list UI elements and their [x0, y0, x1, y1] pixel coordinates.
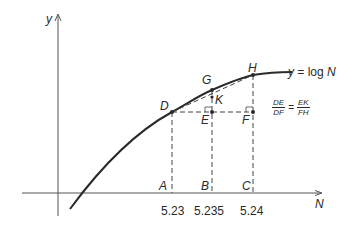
point-K — [210, 95, 213, 98]
point-G — [210, 88, 214, 92]
label-B: B — [201, 180, 209, 192]
tick-A-value: 5.23 — [161, 205, 184, 217]
log-curve — [70, 72, 292, 209]
label-F: F — [242, 114, 249, 126]
curve-label: y = log N — [288, 66, 336, 78]
ratio-formula: DE DF = EK FH — [272, 98, 310, 117]
point-D — [170, 110, 174, 114]
x-axis-label: N — [315, 198, 324, 210]
curve-label-lhs: y — [288, 65, 294, 79]
tick-B-value: 5.235 — [194, 205, 224, 217]
point-F — [251, 110, 255, 114]
label-A: A — [159, 180, 167, 192]
ratio-right-denominator: FH — [297, 108, 310, 117]
ratio-right: EK FH — [297, 98, 310, 117]
tick-C-value: 5.24 — [240, 205, 263, 217]
y-axis-label: y — [46, 13, 52, 25]
point-E — [210, 110, 214, 114]
ratio-right-numerator: EK — [297, 98, 310, 108]
label-K: K — [215, 94, 223, 106]
ratio-left-numerator: DE — [272, 98, 285, 108]
ratio-left: DE DF — [272, 98, 285, 117]
curve-label-var: N — [327, 65, 336, 79]
interpolation-diagram: y N y = log N D E F G K H A B C 5.23 5.2… — [0, 0, 362, 233]
label-C: C — [242, 180, 251, 192]
curve-label-eq: = — [297, 65, 304, 79]
label-H: H — [248, 62, 257, 74]
curve-label-func: log — [308, 65, 324, 79]
label-E: E — [201, 114, 209, 126]
ratio-left-denominator: DF — [272, 108, 285, 117]
ratio-equals: = — [288, 102, 294, 113]
label-D: D — [160, 100, 169, 112]
label-G: G — [202, 74, 211, 86]
